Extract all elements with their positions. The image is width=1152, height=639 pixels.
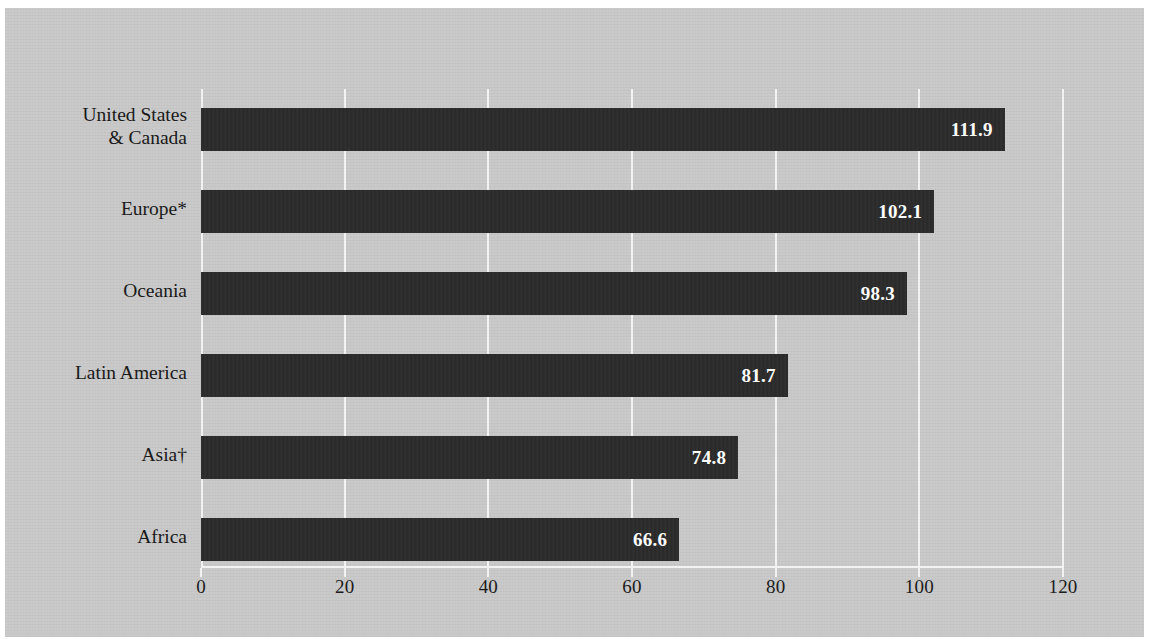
gridline	[775, 89, 777, 568]
bar-value-label: 98.3	[861, 283, 895, 305]
category-label: United States & Canada	[82, 104, 187, 149]
x-tick-label: 40	[479, 576, 498, 598]
category-label: Europe*	[121, 198, 187, 221]
plot-area: 020406080100120 111.9102.198.381.774.866…	[201, 89, 1063, 568]
gridline	[487, 89, 489, 568]
bar[interactable]: 66.6	[201, 518, 679, 561]
bar-row[interactable]: 98.3	[201, 272, 1063, 315]
bar-row[interactable]: 102.1	[201, 190, 1063, 233]
category-label: Africa	[137, 526, 187, 549]
gridline	[631, 89, 633, 568]
bar[interactable]: 111.9	[201, 108, 1005, 151]
x-tick-label: 20	[335, 576, 354, 598]
bar[interactable]: 102.1	[201, 190, 934, 233]
bar-value-label: 102.1	[878, 201, 922, 223]
x-tick-label: 100	[905, 576, 934, 598]
category-axis-labels: United States & Canada Europe* Oceania L…	[5, 89, 201, 568]
bar-value-label: 74.8	[692, 447, 726, 469]
x-tick-label: 80	[766, 576, 785, 598]
y-axis-line	[201, 89, 203, 568]
gridline	[1062, 89, 1064, 568]
x-tick-label: 0	[196, 576, 206, 598]
bar-value-label: 111.9	[951, 119, 993, 141]
gridline	[918, 89, 920, 568]
x-tick-label: 120	[1048, 576, 1077, 598]
bar[interactable]: 81.7	[201, 354, 788, 397]
bar-row[interactable]: 111.9	[201, 108, 1063, 151]
chart-figure: United States & Canada Europe* Oceania L…	[5, 8, 1144, 637]
category-label: Oceania	[123, 280, 187, 303]
x-tick-label: 60	[622, 576, 641, 598]
bar-value-label: 66.6	[633, 529, 667, 551]
bar-row[interactable]: 81.7	[201, 354, 1063, 397]
bar[interactable]: 98.3	[201, 272, 907, 315]
bar-value-label: 81.7	[741, 365, 775, 387]
bar-row[interactable]: 74.8	[201, 436, 1063, 479]
category-label: Asia†	[142, 444, 188, 467]
bar-row[interactable]: 66.6	[201, 518, 1063, 561]
category-label: Latin America	[75, 362, 187, 385]
gridline	[344, 89, 346, 568]
bar[interactable]: 74.8	[201, 436, 738, 479]
